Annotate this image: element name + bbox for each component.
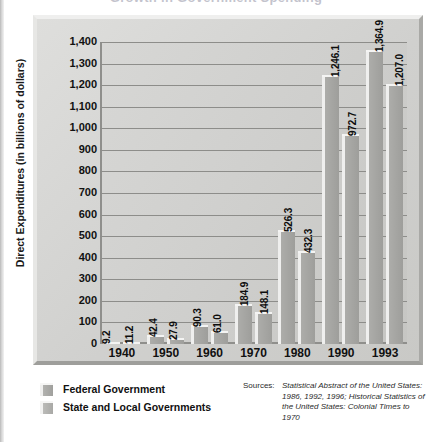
bar[interactable]: 42.4: [147, 335, 164, 344]
y-tick-label: 1,200: [41, 79, 97, 90]
y-tick-label: 100: [41, 316, 97, 327]
bar-value-label: 1,246.1: [330, 45, 341, 77]
y-tick-label: 800: [41, 165, 97, 176]
bar-value-label: 90.3: [192, 308, 203, 327]
bar-group: 526.3432.3: [277, 42, 321, 344]
bar[interactable]: 9.2: [103, 342, 120, 344]
legend-label-state-local: State and Local Governments: [63, 401, 211, 413]
x-tick-label: 1960: [185, 346, 235, 360]
bar-value-label: 184.9: [239, 282, 250, 306]
plot-area: 9.211.242.427.990.361.0184.9148.1526.343…: [100, 42, 407, 344]
bar[interactable]: 526.3: [278, 230, 295, 344]
bar[interactable]: 184.9: [235, 304, 252, 344]
chart-frame: 1,4001,3001,2001,1001,000900800700600500…: [33, 15, 423, 365]
bar-value-label: 432.3: [302, 229, 313, 253]
bar[interactable]: 61.0: [211, 331, 228, 344]
chart-frame-inner: 1,4001,3001,2001,1001,000900800700600500…: [37, 19, 419, 361]
x-tick-label: 1970: [229, 346, 279, 360]
y-tick-label: 0: [41, 338, 97, 349]
bar[interactable]: 27.9: [167, 338, 184, 344]
y-tick-label: 1,300: [41, 58, 97, 69]
sources-note: Sources: Statistical Abstract of the Uni…: [243, 381, 428, 423]
page-edge-spine: [0, 0, 4, 442]
bar-group: 42.427.9: [146, 42, 190, 344]
legend-item-federal: Federal Government: [40, 380, 240, 398]
bar-group: 1,364.91,207.0: [365, 42, 409, 344]
bar-value-label: 27.9: [168, 321, 179, 340]
bar-value-label: 61.0: [212, 314, 223, 333]
bar-value-label: 1,364.9: [374, 20, 385, 52]
bar-value-label: 9.2: [102, 331, 113, 344]
y-tick-label: 900: [41, 144, 97, 155]
bar-group: 1,246.1972.7: [321, 42, 365, 344]
bar-value-label: 526.3: [282, 208, 293, 232]
bar[interactable]: 148.1: [255, 312, 272, 344]
bar-value-label: 11.2: [124, 325, 135, 343]
bar-value-label: 148.1: [259, 290, 270, 314]
bar-value-label: 972.7: [346, 112, 357, 136]
legend-swatch-federal-icon: [40, 383, 53, 396]
y-tick-label: 1,400: [41, 36, 97, 47]
bar-group: 9.211.2: [102, 42, 146, 344]
chart-legend: Federal Government State and Local Gover…: [40, 380, 240, 416]
x-tick-label: 1950: [141, 346, 191, 360]
bar-value-label: 1,207.0: [394, 54, 405, 86]
x-axis-tick-labels: 1940195019601970198019901993: [100, 346, 407, 364]
legend-label-federal: Federal Government: [63, 383, 165, 395]
y-tick-label: 300: [41, 273, 97, 284]
bar-value-label: 42.4: [148, 318, 159, 337]
y-axis-tick-labels: 1,4001,3001,2001,1001,000900800700600500…: [37, 42, 97, 344]
bar[interactable]: 90.3: [191, 325, 208, 344]
chart-title: Growth in Government Spending: [0, 0, 432, 6]
bar[interactable]: 972.7: [342, 134, 359, 344]
sources-label: Sources:: [243, 381, 275, 392]
x-tick-label: 1990: [316, 346, 366, 360]
y-tick-label: 700: [41, 187, 97, 198]
y-tick-label: 1,100: [41, 101, 97, 112]
bar-group: 90.361.0: [190, 42, 234, 344]
legend-item-state-local: State and Local Governments: [40, 398, 240, 416]
x-tick-label: 1940: [97, 346, 147, 360]
bar[interactable]: 1,246.1: [322, 75, 339, 344]
y-tick-label: 200: [41, 295, 97, 306]
y-tick-label: 400: [41, 252, 97, 263]
bar[interactable]: 11.2: [123, 342, 140, 344]
bar[interactable]: 1,364.9: [366, 50, 383, 344]
x-tick-label: 1980: [272, 346, 322, 360]
x-tick-label: 1993: [360, 346, 410, 360]
y-tick-label: 1,000: [41, 122, 97, 133]
y-tick-label: 500: [41, 230, 97, 241]
bar[interactable]: 1,207.0: [386, 84, 403, 344]
legend-swatch-state-local-icon: [40, 401, 53, 414]
bar-group: 184.9148.1: [234, 42, 278, 344]
y-tick-label: 600: [41, 209, 97, 220]
bar[interactable]: 432.3: [298, 251, 315, 344]
